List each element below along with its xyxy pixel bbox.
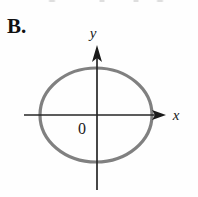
x-axis-label: x — [172, 107, 180, 123]
y-axis-label: y — [88, 25, 97, 41]
figure-container: B. y x 0 — [0, 0, 198, 197]
origin-label: 0 — [78, 120, 86, 137]
coordinate-plot: y x 0 — [0, 0, 198, 197]
